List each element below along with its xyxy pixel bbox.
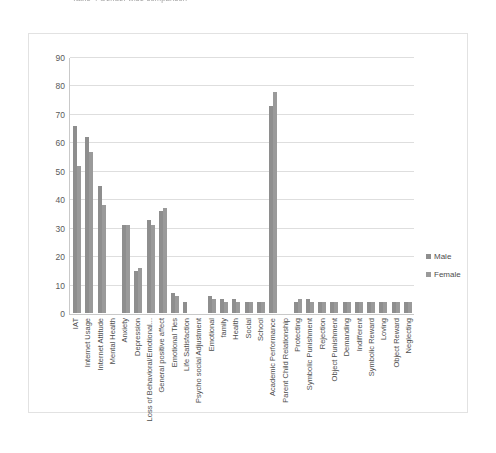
x-axis-label-cell: Demanding bbox=[341, 316, 353, 416]
bar-group bbox=[279, 58, 291, 313]
chart-container: 0102030405060708090 IATInternet UsageInt… bbox=[28, 33, 468, 413]
x-axis-label-cell: Object Reward bbox=[391, 316, 403, 416]
chart-legend: MaleFemale bbox=[426, 252, 461, 288]
bar-group bbox=[145, 58, 157, 313]
x-axis-label-cell: Rejection bbox=[317, 316, 329, 416]
legend-label: Male bbox=[434, 252, 451, 261]
bar-female bbox=[396, 302, 400, 313]
x-axis-label-cell: Symbolic Punishment bbox=[304, 316, 316, 416]
bar-female bbox=[126, 225, 130, 313]
x-axis-label-cell: Neglecting bbox=[403, 316, 415, 416]
legend-swatch-icon bbox=[426, 254, 431, 259]
x-axis-label-cell: Health bbox=[230, 316, 242, 416]
y-axis-tick-label: 70 bbox=[56, 110, 65, 120]
bar-female bbox=[383, 302, 387, 313]
x-axis-label-cell: Social bbox=[243, 316, 255, 416]
x-axis-label-cell: Emotional bbox=[206, 316, 218, 416]
bar-group bbox=[83, 58, 95, 313]
y-axis-tick-label: 40 bbox=[56, 195, 65, 205]
legend-item-male[interactable]: Male bbox=[426, 252, 461, 261]
x-axis-label-cell: IAT bbox=[70, 316, 82, 416]
bar-male bbox=[183, 302, 187, 313]
x-axis-tick-label: Internet Attitude bbox=[97, 318, 105, 371]
legend-label: Female bbox=[434, 270, 461, 279]
bar-group bbox=[267, 58, 279, 313]
bar-group bbox=[169, 58, 181, 313]
x-axis-label-cell: Object Punishment bbox=[329, 316, 341, 416]
bar-female bbox=[334, 302, 338, 313]
x-axis-tick-label: School bbox=[257, 318, 265, 341]
x-axis-label-cell: Indifferent bbox=[354, 316, 366, 416]
bar-group bbox=[365, 58, 377, 313]
x-axis-tick-label: Object Reward bbox=[393, 318, 401, 368]
bar-group bbox=[328, 58, 340, 313]
bar-group bbox=[120, 58, 132, 313]
x-axis-label-cell: family bbox=[218, 316, 230, 416]
bar-group bbox=[353, 58, 365, 313]
x-axis-tick-label: Emotional bbox=[208, 318, 216, 351]
x-axis-tick-label: family bbox=[220, 318, 228, 338]
bar-female bbox=[175, 296, 179, 313]
bar-group bbox=[218, 58, 230, 313]
bar-group bbox=[157, 58, 169, 313]
bar-female bbox=[310, 302, 314, 313]
x-axis-tick-label: Academic Performance bbox=[270, 318, 278, 396]
bar-female bbox=[347, 302, 351, 313]
y-axis-tick-label: 20 bbox=[56, 252, 65, 262]
x-axis-labels: IATInternet UsageInternet AttitudeMental… bbox=[70, 316, 415, 416]
bar-female bbox=[138, 268, 142, 313]
bar-female bbox=[151, 225, 155, 313]
bar-female bbox=[359, 302, 363, 313]
bar-series-container bbox=[71, 58, 414, 313]
y-axis-tick-label: 0 bbox=[60, 309, 65, 319]
bar-group bbox=[292, 58, 304, 313]
x-axis-label-cell: Symbolic Reward bbox=[366, 316, 378, 416]
bar-female bbox=[236, 302, 240, 313]
y-axis-tick-label: 80 bbox=[56, 81, 65, 91]
bar-female bbox=[102, 205, 106, 313]
bar-group bbox=[132, 58, 144, 313]
bar-female bbox=[371, 302, 375, 313]
y-axis-tick-label: 90 bbox=[56, 53, 65, 63]
bar-female bbox=[298, 299, 302, 313]
x-axis-tick-label: IAT bbox=[72, 318, 80, 329]
bar-group bbox=[243, 58, 255, 313]
x-axis-label-cell: Depression bbox=[132, 316, 144, 416]
x-axis-tick-label: Internet Usage bbox=[85, 318, 93, 367]
x-axis-tick-label: Mental Health bbox=[109, 318, 117, 364]
legend-item-female[interactable]: Female bbox=[426, 270, 461, 279]
bar-group bbox=[181, 58, 193, 313]
bar-group bbox=[71, 58, 83, 313]
x-axis-label-cell: General positive affect bbox=[156, 316, 168, 416]
bar-group bbox=[304, 58, 316, 313]
x-axis-tick-label: Parent Child Relationship bbox=[282, 318, 290, 403]
bar-female bbox=[163, 208, 167, 313]
x-axis-label-cell: Mental Health bbox=[107, 316, 119, 416]
plot-area: 0102030405060708090 bbox=[69, 58, 414, 315]
x-axis-label-cell: Loving bbox=[378, 316, 390, 416]
x-axis-tick-label: Health bbox=[233, 318, 241, 340]
x-axis-label-cell: Internet Usage bbox=[82, 316, 94, 416]
x-axis-label-cell: School bbox=[255, 316, 267, 416]
x-axis-label-cell: Anxiety bbox=[119, 316, 131, 416]
x-axis-tick-label: Demanding bbox=[344, 318, 352, 356]
bar-group bbox=[402, 58, 414, 313]
x-axis-tick-label: Life Satisfaction bbox=[183, 318, 191, 371]
bar-female bbox=[212, 299, 216, 313]
page-title: Table 4 Gender wise comparison bbox=[72, 0, 187, 3]
x-axis-label-cell: Parent Child Relationship bbox=[280, 316, 292, 416]
x-axis-tick-label: Loving bbox=[381, 318, 389, 340]
x-axis-label-cell: Protecting bbox=[292, 316, 304, 416]
bar-female bbox=[89, 152, 93, 314]
x-axis-tick-label: Social bbox=[245, 318, 253, 338]
x-axis-label-cell: Internet Attitude bbox=[95, 316, 107, 416]
bar-group bbox=[390, 58, 402, 313]
bar-female bbox=[261, 302, 265, 313]
bar-group bbox=[377, 58, 389, 313]
x-axis-tick-label: Rejection bbox=[319, 318, 327, 349]
bar-group bbox=[230, 58, 242, 313]
x-axis-tick-label: Symbolic Punishment bbox=[307, 318, 315, 390]
x-axis-tick-label: Indifferent bbox=[356, 318, 364, 351]
x-axis-tick-label: Neglecting bbox=[405, 318, 413, 353]
x-axis-label-cell: Life Satisfaction bbox=[181, 316, 193, 416]
